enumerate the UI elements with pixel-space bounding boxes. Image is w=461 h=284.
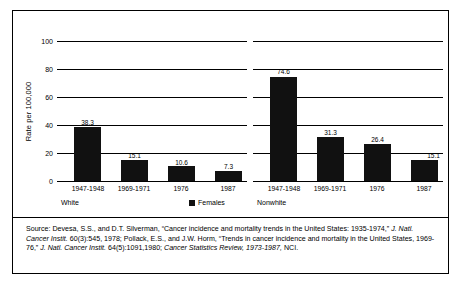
source-prefix: Source: Devesa, S.S., and D.T. Silverman…	[26, 225, 391, 233]
bar-nonwhite-1976[interactable]	[364, 144, 391, 181]
y-tick-label-0: 0	[31, 178, 53, 185]
y-tick-label-20: 20	[31, 150, 53, 157]
y-tick-label-60: 60	[31, 94, 53, 101]
y-tick-label-40: 40	[31, 122, 53, 129]
x-tick-nonwhite-1969-1971: 1969-1971	[304, 185, 356, 193]
figure-frame: Rate per 100,000 100 80 60 40 20 0 38.3 …	[12, 10, 449, 274]
chart-plot-area: Rate per 100,000 100 80 60 40 20 0 38.3 …	[13, 11, 450, 217]
panel-nonwhite: 74.6 1947-1948 31.3 1969-1971 26.4 1976 …	[253, 11, 443, 181]
axis-baseline-white	[57, 181, 247, 182]
legend-swatch-females-icon	[189, 200, 195, 206]
source-note-box: Source: Devesa, S.S., and D.T. Silverman…	[13, 217, 448, 274]
x-tick-nonwhite-1947-1948: 1947-1948	[258, 185, 310, 193]
panel-white: 38.3 1947-1948 15.1 1969-1971 10.6 1976 …	[57, 11, 247, 181]
x-tick-nonwhite-1987: 1987	[398, 185, 450, 193]
x-tick-white-1969-1971: 1969-1971	[108, 185, 160, 193]
x-tick-white-1976: 1976	[155, 185, 207, 193]
bar-nonwhite-1987[interactable]	[411, 160, 438, 181]
bar-value-white-1947-1948: 38.3	[67, 119, 108, 126]
source-mid-2: 64(5):1091,1980;	[106, 244, 164, 252]
axis-baseline-nonwhite	[253, 181, 443, 182]
bar-value-nonwhite-1987: 15.1	[413, 152, 454, 159]
source-journal-3: Cancer Statistics Review, 1973-1987,	[164, 244, 282, 252]
source-note-text: Source: Devesa, S.S., and D.T. Silverman…	[26, 225, 437, 254]
group-label-white: White	[61, 199, 79, 207]
group-label-nonwhite: Nonwhite	[257, 199, 286, 207]
x-tick-white-1947-1948: 1947-1948	[62, 185, 114, 193]
source-journal-2: J. Natl. Cancer Instit.	[40, 244, 106, 252]
bar-white-1987[interactable]	[215, 171, 242, 181]
y-tick-label-80: 80	[31, 66, 53, 73]
source-suffix: NCI.	[282, 244, 298, 252]
bar-value-white-1987: 7.3	[208, 163, 249, 170]
bar-value-nonwhite-1969-1971: 31.3	[310, 129, 351, 136]
bar-white-1947-1948[interactable]	[74, 127, 101, 181]
y-tick-label-100: 100	[31, 38, 53, 45]
chart-legend: Females	[189, 199, 225, 207]
bar-nonwhite-1947-1948[interactable]	[270, 77, 297, 181]
bar-value-nonwhite-1976: 26.4	[357, 136, 398, 143]
bar-value-white-1976: 10.6	[161, 159, 202, 166]
bar-nonwhite-1969-1971[interactable]	[317, 137, 344, 181]
x-tick-white-1987: 1987	[202, 185, 254, 193]
bar-white-1969-1971[interactable]	[121, 160, 148, 181]
legend-label-females: Females	[198, 199, 225, 206]
bar-value-nonwhite-1947-1948: 74.6	[263, 68, 304, 75]
x-tick-nonwhite-1976: 1976	[351, 185, 403, 193]
bar-value-white-1969-1971: 15.1	[114, 152, 155, 159]
bar-white-1976[interactable]	[168, 166, 195, 181]
